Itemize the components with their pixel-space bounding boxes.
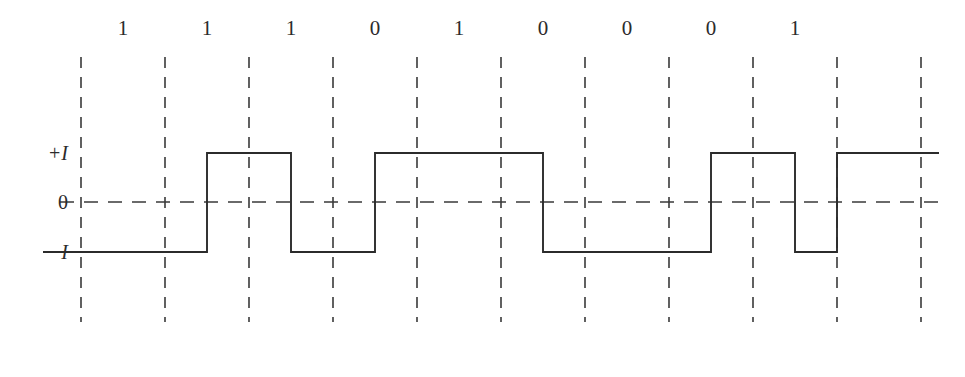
bit-label: 0 [523,18,563,39]
axis-label-zero: 0 [14,192,68,212]
bit-label: 1 [439,18,479,39]
axis-label-negative: −I [14,242,68,262]
waveform-figure: 111010001 +I0−I [0,0,965,377]
bit-label: 0 [607,18,647,39]
bit-label: 1 [187,18,227,39]
bit-label: 1 [103,18,143,39]
waveform-plot [0,0,965,377]
axis-label-positive: +I [14,143,68,163]
bit-label: 0 [691,18,731,39]
bit-label: 1 [271,18,311,39]
bit-label: 1 [775,18,815,39]
bit-label: 0 [355,18,395,39]
